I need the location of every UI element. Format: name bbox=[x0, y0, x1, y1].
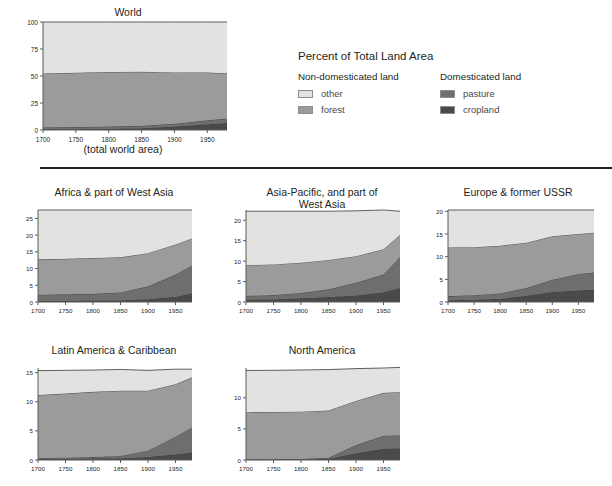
y-tick-label: 0 bbox=[238, 457, 242, 464]
x-tick-label: 1900 bbox=[349, 307, 363, 314]
legend-column-non-domesticated: Non-domesticated land other forest bbox=[298, 71, 416, 120]
legend-item-other: other bbox=[298, 88, 416, 99]
plot-area-africa: 0510152025170017501800185019001950 bbox=[14, 206, 214, 318]
y-tick-label: 10 bbox=[436, 253, 443, 260]
x-tick-label: 1900 bbox=[349, 465, 363, 472]
panel-title-africa: Africa & part of West Asia bbox=[14, 186, 214, 198]
panel-latin-america: Latin America & Caribbean 05101517001750… bbox=[14, 344, 214, 484]
x-tick-label: 1750 bbox=[59, 465, 73, 472]
x-tick-label: 1750 bbox=[59, 307, 73, 314]
x-tick-label: 1850 bbox=[322, 307, 336, 314]
section-divider bbox=[40, 167, 612, 169]
x-tick-label: 1750 bbox=[467, 307, 481, 314]
x-tick-label: 1700 bbox=[36, 136, 51, 143]
y-tick-label: 15 bbox=[26, 248, 33, 255]
legend-heading-domesticated: Domesticated land bbox=[440, 71, 558, 82]
x-tick-label: 1900 bbox=[141, 465, 155, 472]
x-tick-label: 1800 bbox=[101, 136, 116, 143]
y-tick-label: 20 bbox=[26, 232, 33, 239]
panel-africa: Africa & part of West Asia 0510152025170… bbox=[14, 186, 214, 326]
x-tick-label: 1850 bbox=[519, 307, 533, 314]
legend-swatch-pasture-icon bbox=[440, 90, 455, 98]
y-tick-label: 25 bbox=[26, 215, 33, 222]
x-tick-label: 1950 bbox=[200, 136, 215, 143]
x-tick-label: 1800 bbox=[493, 307, 507, 314]
plot-area-north-america: 0510170017501800185019001950 bbox=[222, 364, 422, 476]
x-tick-label: 1950 bbox=[571, 307, 585, 314]
x-tick-label: 1950 bbox=[377, 307, 391, 314]
chart-svg-asia-pacific: 05101520170017501800185019001950 bbox=[222, 206, 422, 318]
legend-label-other: other bbox=[321, 88, 343, 99]
panel-title-latin-america: Latin America & Caribbean bbox=[14, 344, 214, 356]
y-tick-label: 10 bbox=[26, 398, 33, 405]
y-tick-label: 0 bbox=[34, 127, 38, 134]
y-tick-label: 75 bbox=[31, 46, 39, 53]
y-tick-label: 5 bbox=[440, 276, 444, 283]
x-tick-label: 1900 bbox=[141, 307, 155, 314]
legend-item-pasture: pasture bbox=[440, 88, 558, 99]
legend-swatch-other-icon bbox=[298, 90, 313, 98]
y-tick-label: 0 bbox=[238, 299, 242, 306]
y-tick-label: 5 bbox=[238, 278, 242, 285]
y-tick-label: 10 bbox=[26, 265, 33, 272]
y-tick-label: 15 bbox=[26, 369, 33, 376]
plot-area-world: 0255075100170017501800185019001950 bbox=[18, 18, 238, 148]
y-tick-label: 0 bbox=[440, 299, 444, 306]
panel-world: World 0255075100170017501800185019001950 bbox=[18, 4, 238, 159]
y-tick-label: 0 bbox=[30, 457, 34, 464]
x-tick-label: 1700 bbox=[31, 465, 45, 472]
area-band-forest bbox=[43, 72, 227, 127]
panel-title-world: World bbox=[18, 6, 238, 18]
panel-asia-pacific: Asia-Pacific, and part of West Asia 0510… bbox=[222, 186, 422, 326]
x-tick-label: 1700 bbox=[31, 307, 45, 314]
legend-title: Percent of Total Land Area bbox=[298, 50, 558, 62]
legend-column-domesticated: Domesticated land pasture cropland bbox=[440, 71, 558, 120]
x-tick-label: 1850 bbox=[322, 465, 336, 472]
chart-svg-world: 0255075100170017501800185019001950 bbox=[18, 18, 238, 148]
y-tick-label: 10 bbox=[234, 394, 241, 401]
legend-columns: Non-domesticated land other forest Domes… bbox=[298, 71, 558, 120]
legend-label-pasture: pasture bbox=[463, 88, 495, 99]
x-tick-label: 1700 bbox=[441, 307, 455, 314]
x-tick-label: 1800 bbox=[86, 465, 100, 472]
x-tick-label: 1950 bbox=[169, 307, 183, 314]
x-tick-label: 1700 bbox=[239, 465, 253, 472]
x-tick-label: 1800 bbox=[294, 307, 308, 314]
legend-swatch-cropland-icon bbox=[440, 106, 455, 114]
legend-heading-non-domesticated: Non-domesticated land bbox=[298, 71, 416, 82]
x-tick-label: 1900 bbox=[167, 136, 182, 143]
area-band-other bbox=[43, 22, 227, 74]
x-tick-label: 1850 bbox=[114, 307, 128, 314]
panel-title-europe-ussr: Europe & former USSR bbox=[424, 186, 612, 198]
y-tick-label: 15 bbox=[234, 237, 241, 244]
world-x-caption: (total world area) bbox=[18, 143, 228, 155]
chart-svg-latin-america: 051015170017501800185019001950 bbox=[14, 364, 214, 476]
y-tick-label: 5 bbox=[238, 425, 242, 432]
x-tick-label: 1950 bbox=[169, 465, 183, 472]
legend-item-cropland: cropland bbox=[440, 104, 558, 115]
panel-europe-ussr: Europe & former USSR 0510152017001750180… bbox=[424, 186, 612, 326]
y-tick-label: 100 bbox=[27, 19, 38, 26]
chart-svg-north-america: 0510170017501800185019001950 bbox=[222, 364, 422, 476]
y-tick-label: 20 bbox=[234, 217, 241, 224]
x-tick-label: 1750 bbox=[267, 307, 281, 314]
x-tick-label: 1750 bbox=[267, 465, 281, 472]
plot-area-latin-america: 051015170017501800185019001950 bbox=[14, 364, 214, 476]
x-tick-label: 1700 bbox=[239, 307, 253, 314]
x-tick-label: 1750 bbox=[69, 136, 84, 143]
panel-title-north-america: North America bbox=[222, 344, 422, 356]
y-tick-label: 5 bbox=[30, 427, 34, 434]
panel-north-america: North America 05101700175018001850190019… bbox=[222, 344, 422, 484]
y-tick-label: 5 bbox=[30, 282, 34, 289]
plot-area-europe-ussr: 05101520170017501800185019001950 bbox=[424, 206, 612, 318]
y-tick-label: 20 bbox=[436, 208, 443, 215]
x-tick-label: 1900 bbox=[545, 307, 559, 314]
legend-label-cropland: cropland bbox=[463, 104, 499, 115]
legend-label-forest: forest bbox=[321, 104, 345, 115]
plot-area-asia-pacific: 05101520170017501800185019001950 bbox=[222, 206, 422, 318]
y-tick-label: 10 bbox=[234, 258, 241, 265]
chart-svg-europe-ussr: 05101520170017501800185019001950 bbox=[424, 206, 612, 318]
y-tick-label: 15 bbox=[436, 231, 443, 238]
x-tick-label: 1800 bbox=[86, 307, 100, 314]
x-tick-label: 1800 bbox=[294, 465, 308, 472]
